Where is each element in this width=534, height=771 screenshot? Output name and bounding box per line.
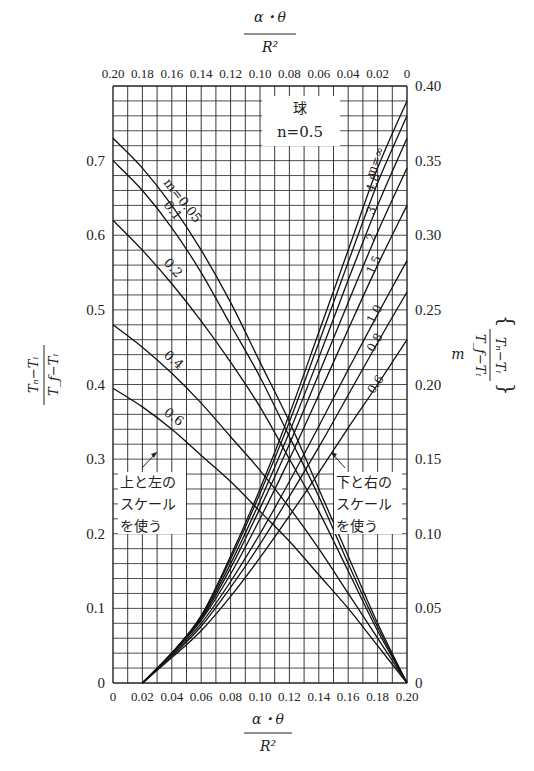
y-right-tick-label: 0.40 xyxy=(415,78,441,94)
chart-title: 球 xyxy=(293,100,307,116)
right-axis-label-denominator: T_f−Tᵢ xyxy=(473,334,488,377)
y-right-tick-label: 0.15 xyxy=(415,451,441,467)
x-top-tick-label: 0.02 xyxy=(366,66,389,81)
right-axis-label: { Tₙ−Tᵢ T_f−Tᵢ } m xyxy=(451,315,519,396)
y-right-tick-label: 0.10 xyxy=(415,526,441,542)
x-top-tick-label: 0.18 xyxy=(131,66,154,81)
left-axis-label: Tₙ−Tᵢ T_f−Tᵢ xyxy=(26,345,61,405)
right-scale-note: 下と右の スケール を使う xyxy=(331,452,402,534)
curve-label: m=0.05 xyxy=(161,175,205,225)
left-scale-note-line1: 上と左の xyxy=(120,474,176,490)
bottom-axis-label-denominator: R² xyxy=(259,738,277,754)
y-left-tick-label: 0.1 xyxy=(86,600,105,616)
y-left-tick-label: 0.5 xyxy=(86,302,105,318)
left-axis-label-numerator: Tₙ−Tᵢ xyxy=(26,357,41,394)
x-bottom-tick-label: 0.20 xyxy=(396,689,419,704)
curve-label: 0.4 xyxy=(161,347,186,372)
right-axis-bracket-open: { xyxy=(495,315,519,328)
left-scale-note-line3: を使う xyxy=(120,518,162,534)
top-axis-label-numerator: α・θ xyxy=(254,9,286,25)
left-axis-label-denominator: T_f−Tᵢ xyxy=(46,354,61,397)
bottom-axis-label-numerator: α・θ xyxy=(252,711,284,727)
x-top-tick-label: 0.06 xyxy=(307,66,330,81)
y-right-tick-label: 0.20 xyxy=(415,377,441,393)
curve-label: 0.2 xyxy=(161,255,186,280)
y-right-tick-label: 0.30 xyxy=(415,227,441,243)
x-top-tick-label: 0 xyxy=(404,66,411,81)
x-top-tick-label: 0.12 xyxy=(219,66,242,81)
x-bottom-tick-label: 0.02 xyxy=(131,689,154,704)
x-bottom-tick-label: 0.10 xyxy=(249,689,272,704)
y-right-tick-label: 0.25 xyxy=(415,302,441,318)
right-axis-label-prefix: m xyxy=(451,346,464,362)
grid xyxy=(113,86,407,683)
right-scale-note-line3: を使う xyxy=(336,518,378,534)
top-axis-label-denominator: R² xyxy=(261,39,279,55)
right-axis-bracket-close: } xyxy=(495,383,519,396)
y-right-tick-label: 0.05 xyxy=(415,600,441,616)
x-bottom-tick-label: 0.12 xyxy=(278,689,301,704)
y-left-tick-label: 0.4 xyxy=(86,377,105,393)
right-scale-note-line2: スケール xyxy=(336,496,392,512)
curve-label: 0.6 xyxy=(161,405,187,429)
x-top-tick-label: 0.08 xyxy=(278,66,301,81)
x-bottom-tick-label: 0.08 xyxy=(219,689,242,704)
y-right-tick-label: 0.35 xyxy=(415,153,441,169)
y-right-tick-label: 0 xyxy=(415,675,423,691)
right-scale-note-line1: 下と右の xyxy=(336,474,392,490)
chart-subtitle: n=0.5 xyxy=(277,123,323,141)
x-bottom-tick-label: 0.06 xyxy=(190,689,213,704)
x-top-tick-label: 0.20 xyxy=(102,66,125,81)
y-left-tick-label: 0 xyxy=(98,675,106,691)
y-left-tick-label: 0.3 xyxy=(86,451,105,467)
chart: m=0.050.10.20.40.6m=∞4.8321.51.00.80.6 0… xyxy=(0,0,534,771)
y-left-tick-label: 0.7 xyxy=(86,153,105,169)
left-scale-note-line2: スケール xyxy=(120,496,176,512)
left-scale-note: 上と左の スケール を使う xyxy=(118,452,186,534)
x-bottom-tick-label: 0.04 xyxy=(160,689,183,704)
y-left-tick-label: 0.2 xyxy=(86,526,105,542)
y-left-tick-label: 0.6 xyxy=(86,227,105,243)
x-bottom-tick-label: 0.18 xyxy=(366,689,389,704)
x-top-tick-label: 0.16 xyxy=(160,66,183,81)
x-bottom-tick-label: 0.14 xyxy=(307,689,330,704)
x-bottom-tick-label: 0.16 xyxy=(337,689,360,704)
x-top-tick-label: 0.04 xyxy=(337,66,360,81)
x-bottom-tick-label: 0 xyxy=(110,689,117,704)
x-top-tick-label: 0.10 xyxy=(249,66,272,81)
x-top-tick-label: 0.14 xyxy=(190,66,213,81)
right-axis-label-numerator: Tₙ−Tᵢ xyxy=(493,337,508,374)
